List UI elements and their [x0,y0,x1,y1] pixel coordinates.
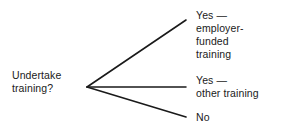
branch-label-no: No [196,111,210,124]
decision-tree-diagram: Undertake training? Yes — employer- fund… [0,0,283,132]
branch-line-employer-funded-training [87,20,186,87]
branch-label-employer-funded-training: Yes — employer- funded training [196,9,244,61]
branch-line-no [87,87,186,117]
root-node-label: Undertake training? [12,69,61,95]
branch-label-other-training: Yes — other training [196,74,259,100]
